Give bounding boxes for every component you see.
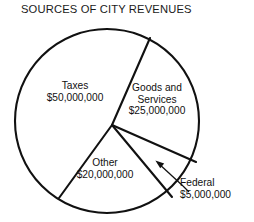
slice-label-goods-name-line1: Goods and bbox=[116, 82, 198, 94]
slice-label-taxes: Taxes $50,000,000 bbox=[32, 80, 118, 103]
slice-label-other-value: $20,000,000 bbox=[62, 169, 148, 181]
slice-label-other-name: Other bbox=[62, 157, 148, 169]
pie-outline bbox=[15, 29, 199, 213]
pie-chart-figure: SOURCES OF CITY REVENUES Taxes $50,000,0… bbox=[0, 0, 254, 222]
slice-label-taxes-value: $50,000,000 bbox=[32, 92, 118, 104]
slice-label-goods-and-services: Goods and Services $25,000,000 bbox=[116, 82, 198, 117]
slice-label-taxes-name: Taxes bbox=[32, 80, 118, 92]
slice-label-goods-value: $25,000,000 bbox=[116, 105, 198, 117]
slice-label-federal-name: Federal bbox=[180, 177, 254, 189]
slice-label-other: Other $20,000,000 bbox=[62, 157, 148, 180]
slice-label-federal-value: $5,000,000 bbox=[180, 189, 254, 201]
slice-label-federal: Federal $5,000,000 bbox=[180, 177, 254, 200]
slice-label-goods-name-line2: Services bbox=[116, 94, 198, 106]
